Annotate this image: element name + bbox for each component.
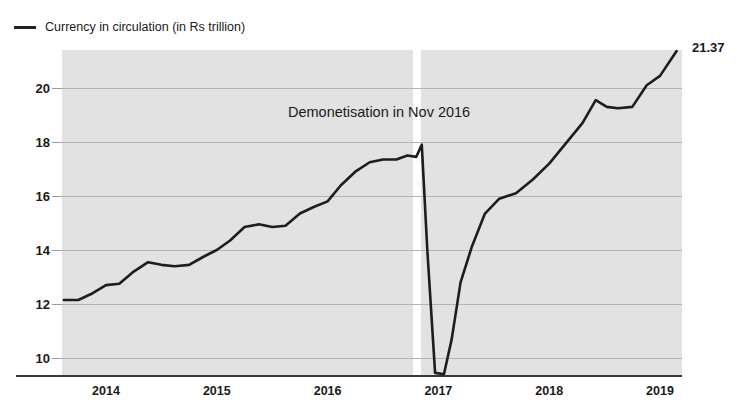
currency-in-circulation-line	[64, 51, 677, 374]
plot-area: 101214161820 201420152016201720182019 De…	[0, 0, 739, 419]
demonetisation-annotation: Demonetisation in Nov 2016	[288, 104, 470, 120]
chart-root: Currency in circulation (in Rs trillion)…	[0, 0, 739, 419]
series-svg	[0, 0, 739, 419]
final-value-label: 21.37	[692, 40, 725, 55]
